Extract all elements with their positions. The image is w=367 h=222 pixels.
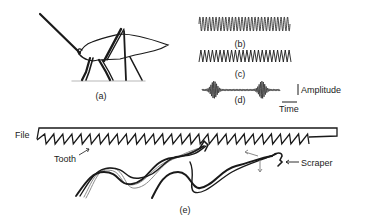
panel-e-label: (e) [180, 205, 191, 215]
leg-hind-femur-2 [107, 29, 124, 60]
motion-arrow-grey-down [258, 160, 262, 172]
motion-arrow-grey-left [245, 150, 258, 156]
panel-d-label: (d) [235, 95, 246, 105]
waveform-b-trace [199, 17, 290, 31]
leg-hind-2 [130, 57, 142, 80]
waveform-c-trace [199, 50, 291, 62]
scraper-pointer-arrow [286, 160, 299, 164]
scraper-label: Scraper [301, 158, 333, 168]
antenna [40, 14, 80, 53]
tooth-pointer-arrow [79, 149, 89, 156]
file-label: File [15, 130, 30, 140]
panel-c-label: (c) [235, 69, 246, 79]
file-bar [37, 128, 337, 144]
waveform-c [199, 50, 291, 62]
panel-a-label: (a) [96, 91, 107, 101]
panel-b-label: (b) [235, 39, 246, 49]
figure-canvas: (a) (b) (c) (d) Amplitude Time File Toot… [0, 0, 367, 222]
file-teeth [37, 134, 309, 144]
scraper-tip [272, 153, 282, 166]
amplitude-label: Amplitude [301, 85, 341, 95]
leg-hind-tibia [124, 31, 126, 80]
leg-front [82, 58, 90, 80]
tooth-label: Tooth [54, 154, 76, 164]
leg-hind-femur [104, 29, 121, 61]
panel-a-insect [40, 14, 168, 81]
time-label: Time [279, 104, 299, 114]
scraper-traces [76, 141, 282, 198]
waveform-b [199, 17, 290, 31]
